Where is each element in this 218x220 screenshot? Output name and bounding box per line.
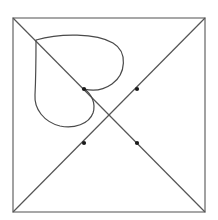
marker-lower-left <box>82 141 86 145</box>
geometric-figure-svg <box>0 0 218 220</box>
figure-background <box>0 0 218 220</box>
marker-upper-right <box>135 87 139 91</box>
marker-upper-left <box>82 87 86 91</box>
figure-container <box>0 0 218 220</box>
marker-lower-right <box>135 141 139 145</box>
